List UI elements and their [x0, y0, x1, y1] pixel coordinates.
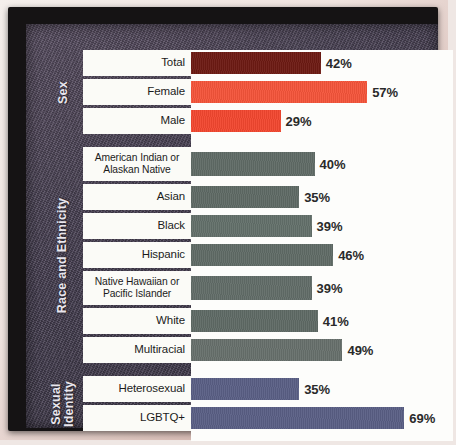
category-label: LGBTQ+ [83, 405, 191, 431]
category-label: Male [83, 108, 191, 134]
category-label: White [83, 308, 191, 334]
category-label: Hispanic [83, 242, 191, 268]
bar [191, 276, 312, 300]
category-label: American Indian or Alaskan Native [83, 147, 191, 181]
bar-value-label: 35% [299, 184, 330, 210]
bar-texture [191, 407, 404, 429]
bar [191, 215, 312, 237]
category-label: Heterosexual [83, 376, 191, 402]
group-axis-label-text: Race and Ethnicity [57, 197, 70, 312]
bar-texture [191, 310, 318, 332]
bar [191, 81, 367, 103]
bar-value-label: 49% [342, 337, 373, 363]
bar-value-label: 57% [367, 79, 398, 105]
bar-value-label: 29% [281, 108, 312, 134]
bar-value-label: 35% [299, 376, 330, 402]
chart-row: LGBTQ+69% [44, 405, 456, 431]
category-label: Black [83, 213, 191, 239]
bar-value-label: 42% [321, 50, 352, 76]
chart-row: Native Hawaiian or Pacific Islander39% [44, 271, 456, 305]
category-label: Female [83, 79, 191, 105]
bar-texture [191, 186, 299, 208]
chart-row: White41% [44, 308, 456, 334]
bar [191, 407, 404, 429]
bar-texture [191, 244, 333, 266]
chart-mount-background: Total42%Female57%Male29%American Indian … [26, 24, 438, 428]
chart-row: Total42% [44, 50, 456, 76]
chart-row: Asian35% [44, 184, 456, 210]
chart-row: Male29% [44, 108, 456, 134]
bar-texture [191, 110, 281, 132]
group-axis-label-sex: Sex [44, 50, 82, 134]
bar-value-label: 46% [333, 242, 364, 268]
bar [191, 378, 299, 400]
group-axis-label-text: Sex [57, 81, 70, 104]
category-label: Asian [83, 184, 191, 210]
bar [191, 152, 315, 176]
group-axis-label-sexual-identity: Sexual Identity [44, 376, 82, 431]
bar-texture [191, 52, 321, 74]
bar-value-label: 39% [312, 271, 343, 305]
chart-row: Black39% [44, 213, 456, 239]
bar-texture [191, 152, 315, 176]
bar-texture [191, 215, 312, 237]
bar [191, 244, 333, 266]
chart-row: Multiracial49% [44, 337, 456, 363]
chart-row: Hispanic46% [44, 242, 456, 268]
bar-texture [191, 276, 312, 300]
bar [191, 310, 318, 332]
bar [191, 339, 342, 361]
bar-value-label: 69% [404, 405, 435, 431]
bar-value-label: 41% [318, 308, 349, 334]
chart-rows: Total42%Female57%Male29%American Indian … [44, 41, 456, 445]
bar-texture [191, 81, 367, 103]
category-label: Multiracial [83, 337, 191, 363]
category-label: Native Hawaiian or Pacific Islander [83, 271, 191, 305]
bar-texture [191, 339, 342, 361]
chart-row: Heterosexual35% [44, 376, 456, 402]
chart-row: Female57% [44, 79, 456, 105]
group-axis-label-race-and-ethnicity: Race and Ethnicity [44, 147, 82, 363]
bar-texture [191, 378, 299, 400]
chart-row: American Indian or Alaskan Native40% [44, 147, 456, 181]
category-label: Total [83, 50, 191, 76]
group-axis-label-text: Sexual Identity [50, 380, 76, 426]
bar [191, 110, 281, 132]
bar-value-label: 39% [312, 213, 343, 239]
picture-frame: Total42%Female57%Male29%American Indian … [8, 7, 438, 431]
bar-value-label: 40% [315, 147, 346, 181]
bar [191, 186, 299, 208]
bar [191, 52, 321, 74]
